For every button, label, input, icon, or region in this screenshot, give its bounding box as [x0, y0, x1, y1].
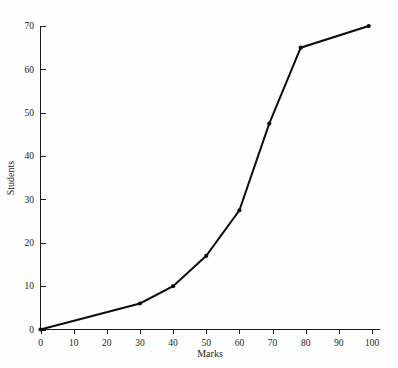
y-tick-label: 60	[25, 65, 35, 75]
x-tick-label: 80	[301, 338, 311, 348]
y-tick-label: 30	[25, 195, 35, 205]
y-tick-label: 40	[25, 151, 35, 161]
x-tick-label: 10	[69, 338, 79, 348]
x-tick-label: 40	[168, 338, 178, 348]
data-point-marker	[367, 24, 371, 28]
x-tick-label: 100	[365, 338, 380, 348]
y-tick-group: 010203040506070	[25, 21, 47, 335]
data-point-marker	[299, 46, 303, 50]
data-point-marker	[138, 301, 142, 305]
y-axis-title: Students	[5, 161, 16, 196]
y-tick-label: 0	[29, 325, 34, 335]
data-point-marker	[38, 327, 42, 331]
x-tick-group: 0102030405060708090100	[38, 329, 379, 348]
x-tick-label: 50	[202, 338, 212, 348]
x-tick-label: 60	[235, 338, 245, 348]
data-point-marker	[204, 254, 208, 258]
x-tick-label: 90	[334, 338, 344, 348]
line-chart: 010203040506070 Students 010203040506070…	[0, 0, 398, 368]
x-tick-label: 30	[135, 338, 145, 348]
y-tick-label: 70	[25, 21, 35, 31]
y-tick-label: 10	[25, 281, 35, 291]
data-point-marker	[267, 121, 271, 125]
y-axis: 010203040506070 Students	[5, 21, 46, 335]
x-tick-label: 20	[102, 338, 112, 348]
x-tick-label: 0	[38, 338, 43, 348]
x-axis-title: Marks	[197, 348, 223, 359]
data-series-group	[38, 24, 370, 332]
data-line-cumulative-students	[41, 26, 369, 330]
y-tick-label: 20	[25, 238, 35, 248]
x-tick-label: 70	[268, 338, 278, 348]
x-axis: 0102030405060708090100 Marks	[38, 329, 380, 359]
data-point-marker	[171, 284, 175, 288]
chart-figure: · · · 010203040506070 Students 010203040…	[0, 0, 398, 368]
y-tick-label: 50	[25, 108, 35, 118]
data-point-marker	[237, 208, 241, 212]
